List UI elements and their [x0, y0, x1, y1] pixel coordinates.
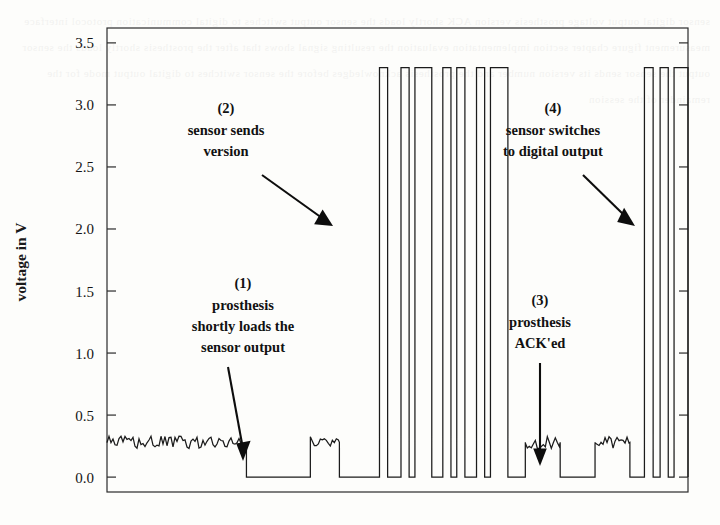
y-tick-label: 0.5 [75, 408, 94, 424]
annotation-2-arrow-head [314, 210, 333, 226]
annotation-1-number: (1) [235, 275, 252, 292]
annotation-1-line-3: sensor output [201, 339, 285, 355]
annotation-3-arrow-head [533, 449, 547, 467]
y-axis-title: voltage in V [12, 222, 29, 302]
annotation-2-number: (2) [218, 100, 235, 117]
annotation-4-line-2: to digital output [503, 143, 603, 159]
annotation-3-number: (3) [532, 292, 549, 309]
annotation-3-line-2: ACK'ed [515, 335, 566, 351]
annotation-4-number: (4) [545, 100, 562, 117]
y-tick-label: 1.5 [75, 284, 94, 300]
annotation-3: (3) prosthesis ACK'ed [509, 292, 571, 466]
y-tick-label: 3.0 [75, 97, 94, 113]
plot-frame [107, 28, 688, 492]
annotation-1-line-1: prosthesis [212, 297, 274, 313]
annotation-4-line-1: sensor switches [506, 122, 601, 138]
annotation-2-arrow-shaft [262, 175, 322, 218]
annotation-4-arrow-shaft [583, 175, 625, 216]
annotation-1: (1) prosthesis shortly loads the sensor … [192, 275, 295, 461]
annotation-2-line-1: sensor sends [188, 122, 265, 138]
annotation-1-arrow-shaft [228, 367, 243, 449]
y-tick-label: 2.0 [75, 221, 94, 237]
annotation-1-arrow-head [236, 441, 250, 461]
chart-svg: 0.00.51.01.52.02.53.03.5 voltage in V (1… [0, 0, 720, 525]
annotation-2: (2) sensor sends version [188, 100, 333, 226]
annotation-2-line-2: version [203, 143, 248, 159]
y-tick-label: 0.0 [75, 470, 94, 486]
y-tick-label: 2.5 [75, 159, 94, 175]
figure-root: sensor digital output voltage prosthesis… [0, 0, 720, 525]
annotation-3-line-1: prosthesis [509, 314, 571, 330]
annotation-4: (4) sensor switches to digital output [503, 100, 635, 226]
annotation-1-line-2: shortly loads the [192, 318, 295, 334]
y-axis-ticks [107, 43, 688, 477]
y-tick-label: 3.5 [75, 35, 94, 51]
y-axis-tick-labels: 0.00.51.01.52.02.53.03.5 [75, 35, 94, 485]
y-tick-label: 1.0 [75, 346, 94, 362]
